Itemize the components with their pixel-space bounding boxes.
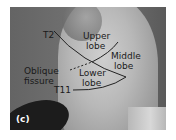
label-lower-lobe-2: lobe — [82, 79, 101, 88]
label-t2: T2 — [43, 31, 54, 40]
label-lower-lobe-1: Lower — [79, 69, 106, 78]
label-middle-lobe-2: lobe — [114, 62, 133, 71]
label-oblique: Oblique — [24, 67, 59, 76]
lung-lobes-photo: T2 Upper lobe Middle lobe Oblique fissur… — [10, 7, 166, 130]
label-upper-lobe-2: lobe — [86, 42, 105, 51]
label-upper-lobe-1: Upper — [83, 32, 110, 41]
panel-label: (c) — [16, 114, 30, 124]
label-t11: T11 — [54, 86, 71, 95]
label-middle-lobe-1: Middle — [111, 52, 141, 61]
label-fissure: fissure — [24, 77, 54, 86]
